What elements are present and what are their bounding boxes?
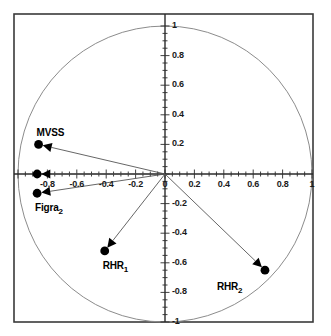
y-tick-label-10: -1 <box>172 316 180 326</box>
x-tick-label-7: 0.4 <box>218 179 230 189</box>
data-point-marker <box>100 247 109 256</box>
y-tick-label-8: -0.6 <box>172 257 187 267</box>
y-tick-label-2: 0.6 <box>172 79 184 89</box>
x-tick-label-5: 0 <box>163 179 168 189</box>
point-label-RHR2: RHR2 <box>217 281 242 295</box>
arrow-head <box>107 238 116 248</box>
x-tick-label-10: 1 <box>310 179 315 189</box>
arrow-head <box>41 169 50 178</box>
correlation-circle-chart: -0.8-0.6-0.4-0.200.20.40.60.8110.80.60.4… <box>0 0 331 336</box>
point-label-Figra2: Figra2 <box>35 202 63 216</box>
data-point-markers <box>33 140 270 275</box>
plot-canvas <box>0 0 331 336</box>
data-point-marker <box>34 140 43 149</box>
point-label-MVSS: MVSS <box>37 127 65 138</box>
x-tick-label-6: 0.2 <box>188 179 200 189</box>
y-tick-label-9: -0.8 <box>172 286 187 296</box>
y-tick-label-1: 0.8 <box>172 50 184 60</box>
y-tick-label-4: 0.2 <box>172 138 184 148</box>
x-tick-label-2: -0.6 <box>69 179 84 189</box>
x-tick-label-4: -0.2 <box>128 179 143 189</box>
x-tick-label-9: 0.8 <box>277 179 289 189</box>
x-tick-label-8: 0.6 <box>247 179 259 189</box>
variable-arrows <box>41 143 262 267</box>
data-point-marker <box>33 189 42 198</box>
point-label-RHR1: RHR1 <box>103 260 128 274</box>
data-point-marker <box>33 170 42 179</box>
y-tick-label-7: -0.4 <box>172 227 187 237</box>
data-point-marker <box>261 266 270 275</box>
arrow-shaft <box>51 147 165 174</box>
y-tick-label-0: 1 <box>172 20 177 30</box>
arrow-shaft <box>165 174 255 261</box>
y-tick-label-6: -0.2 <box>172 198 187 208</box>
arrow-head <box>43 143 53 152</box>
x-tick-label-3: -0.4 <box>99 179 114 189</box>
x-tick-label-1: -0.8 <box>40 179 55 189</box>
y-tick-label-3: 0.4 <box>172 109 184 119</box>
